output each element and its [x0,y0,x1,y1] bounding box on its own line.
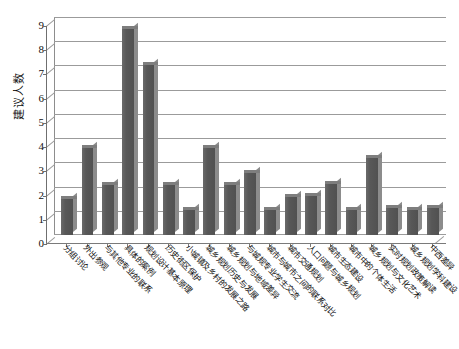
bar-face [305,196,317,235]
bar-series [46,17,446,244]
bar [325,184,337,235]
bar-top [143,62,159,65]
bar-face [122,29,134,235]
bar-side [215,142,219,232]
y-tick-label: 2 [18,190,44,201]
bar-face [163,185,175,235]
bar [61,199,73,235]
bar-top [102,182,118,185]
bar [82,148,94,235]
y-tick-label: 6 [18,93,44,104]
bar-top [285,194,301,197]
bar-top [82,145,98,148]
bar-face [264,210,276,235]
bar-top [264,207,280,210]
bar [203,148,215,235]
x-axis-labels: 分组讨论外出参观与其他专业的联系具体的案例规划设计基本原理历史街区保护小城镇及乡… [46,244,459,349]
bar-side [114,179,118,232]
bar-face [244,173,256,235]
bar-top [366,155,382,158]
bar-face [386,208,398,235]
bar-face [82,148,94,235]
bar [163,185,175,235]
y-tick-label: 7 [18,68,44,79]
bar-top [183,207,199,210]
bar-top [427,205,443,208]
bar-face [407,210,419,235]
bar-face [143,65,155,235]
bar [366,158,378,236]
bar [346,210,358,235]
bar-top [305,193,321,196]
bar [305,196,317,235]
bar-top [163,182,179,185]
bar-side [154,59,158,232]
bar-side [317,190,321,232]
bar-side [175,179,179,232]
bar [122,29,134,235]
bar-top [325,181,341,184]
bar [386,208,398,235]
bar-face [102,185,114,235]
bar-face [325,184,337,235]
bar-side [93,142,97,232]
bar-face [203,148,215,235]
y-tick-label: 4 [18,141,44,152]
y-tick-label: 8 [18,44,44,55]
bar-side [337,178,341,232]
bar-top [407,207,423,210]
bar-face [61,199,73,235]
y-tick-label: 3 [18,165,44,176]
bar [427,208,439,235]
bar-face [366,158,378,236]
bar-top [346,207,362,210]
bar-face [285,197,297,235]
bar-face [427,208,439,235]
bar [285,197,297,235]
plot-area: 0123456789 [46,17,446,244]
bar [183,210,195,235]
bar [102,185,114,235]
bar-top [244,170,260,173]
bar-top [224,182,240,185]
bar-face [346,210,358,235]
bar [143,65,155,235]
bar [264,210,276,235]
bar-chart: 建议人数 0123456789 分组讨论外出参观与其他专业的联系具体的案例规划设… [0,0,459,349]
bar-side [236,179,240,232]
bar-side [256,167,260,232]
y-tick-label: 5 [18,117,44,128]
bar-side [378,151,382,232]
bar [244,173,256,235]
bar [224,185,236,235]
bar [407,210,419,235]
bar-face [224,185,236,235]
bar-top [203,145,219,148]
y-tick-label: 0 [18,238,44,249]
y-tick-label: 9 [18,20,44,31]
y-tick-label: 1 [18,214,44,225]
bar-top [122,26,138,29]
bar-side [134,23,138,232]
bar-face [183,210,195,235]
bar-top [386,205,402,208]
bar-top [61,196,77,199]
